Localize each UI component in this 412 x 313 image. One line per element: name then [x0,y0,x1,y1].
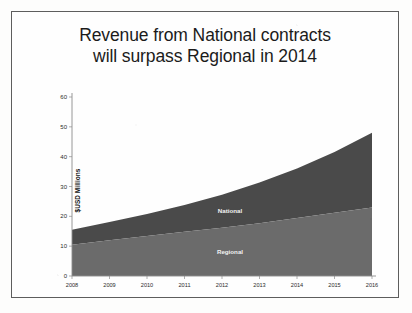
title-line-2: will surpass Regional in 2014 [12,46,398,67]
y-tick-label: 20 [60,213,67,219]
y-tick-label: 50 [60,124,67,130]
chart-area: $USD Millions 01020304050602008200920102… [12,69,400,295]
y-tick-label: 40 [60,154,67,160]
slide-frame: Revenue from National contracts will sur… [11,11,399,298]
x-tick-label: 2014 [291,282,303,288]
y-tick-label: 60 [60,94,67,100]
series-label-regional: Regional [217,248,243,255]
x-tick-label: 2016 [366,282,378,288]
series-label-national: National [218,207,243,214]
x-tick-label: 2009 [103,282,115,288]
slide-canvas: Revenue from National contracts will sur… [0,0,412,313]
title-line-1: Revenue from National contracts [12,25,398,46]
x-tick-label: 2013 [253,282,265,288]
x-tick-label: 2015 [328,282,340,288]
y-tick-label: 0 [64,273,68,279]
stacked-area-chart: 0102030405060200820092010201120122013201… [12,69,400,295]
y-tick-label: 30 [60,184,67,190]
x-tick-label: 2008 [66,282,78,288]
x-tick-label: 2012 [216,282,228,288]
x-tick-label: 2010 [141,282,153,288]
page-title: Revenue from National contracts will sur… [12,25,398,67]
x-tick-label: 2011 [178,282,190,288]
y-tick-label: 10 [60,243,67,249]
